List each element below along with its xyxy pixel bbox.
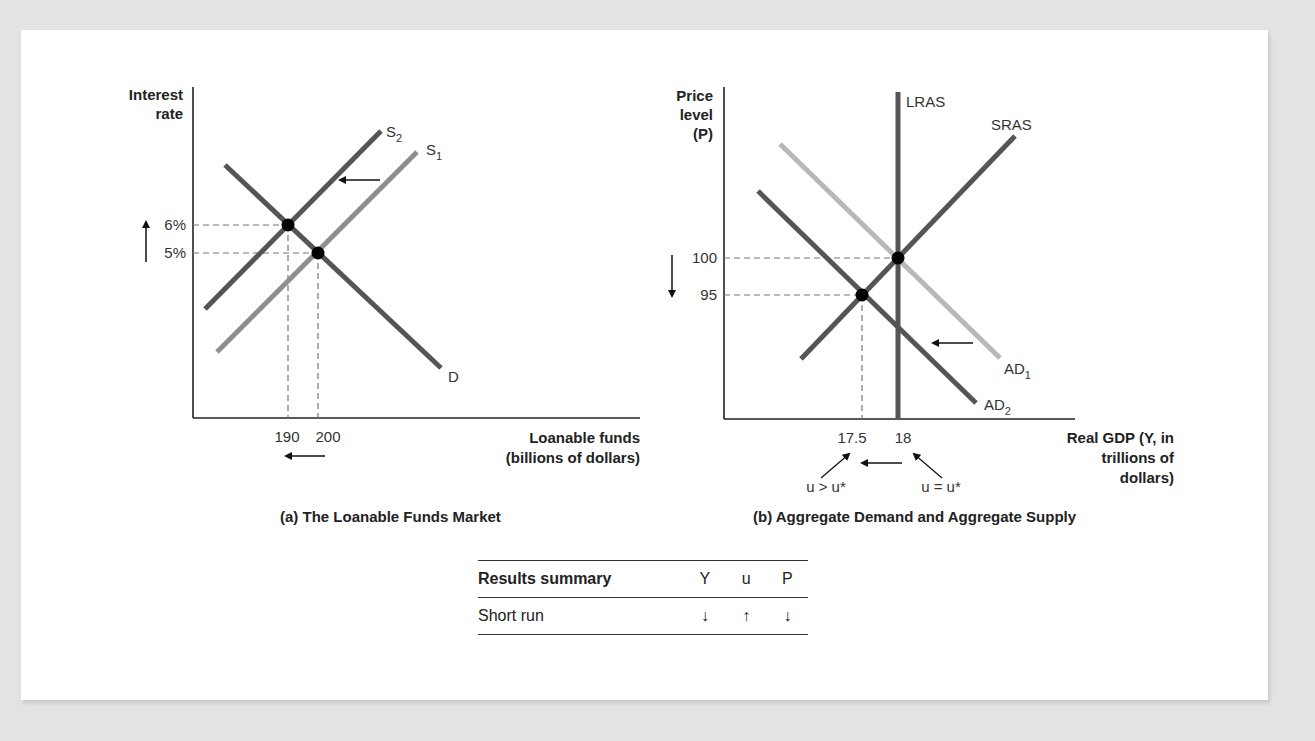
caption-a: (a) The Loanable Funds Market <box>280 508 501 525</box>
y-tick-100: 100 <box>692 249 717 266</box>
ad1-curve <box>780 144 1000 358</box>
guide-lines <box>193 225 318 418</box>
ad1-label: AD1 <box>1004 360 1031 381</box>
row-label: Short run <box>478 598 684 635</box>
x-tick-18: 18 <box>895 429 912 446</box>
x-tick-17-5: 17.5 <box>837 429 866 446</box>
sras-label: SRAS <box>991 116 1032 133</box>
x-axis-title-line2: trillions of <box>1102 449 1176 466</box>
note-unemployment-above: u > u* <box>806 478 846 495</box>
y-tick-5: 5% <box>164 244 186 261</box>
y-axis-title-line1: Price <box>676 87 713 104</box>
equilibrium-point-short-run <box>856 289 869 302</box>
loanable-funds-chart: Interest rate S2 S1 D 6% 5% 190 200 Lo <box>129 86 640 525</box>
y-axis-title-line3: (P) <box>693 125 713 142</box>
equilibrium-point-initial <box>312 247 325 260</box>
pointer-arrow-right-icon <box>914 454 942 478</box>
y-axis-title-line2: level <box>680 106 713 123</box>
x-tick-200: 200 <box>315 428 340 445</box>
d-label: D <box>448 368 459 385</box>
x-axis-title-line1: Loanable funds <box>529 429 640 446</box>
sras-curve <box>801 136 1015 359</box>
header-y: Y <box>684 561 725 598</box>
s1-label: S1 <box>426 141 442 162</box>
cell-u: ↑ <box>726 598 767 635</box>
results-summary-table: Results summary Y u P Short run ↓ ↑ ↓ <box>478 560 808 635</box>
header-results-summary: Results summary <box>478 561 684 598</box>
pointer-arrow-left-icon <box>821 454 849 478</box>
header-u: u <box>726 561 767 598</box>
equilibrium-point-new <box>282 219 295 232</box>
d-curve <box>225 165 441 368</box>
cell-p: ↓ <box>767 598 808 635</box>
ad-as-chart: Price level (P) LRAS SRAS AD1 AD2 100 95… <box>672 87 1175 525</box>
y-axis-title-line2: rate <box>155 105 183 122</box>
y-axis-title-line1: Interest <box>129 86 183 103</box>
y-tick-95: 95 <box>700 286 717 303</box>
table-header-row: Results summary Y u P <box>478 561 808 598</box>
x-axis-title-line1: Real GDP (Y, in <box>1067 429 1174 446</box>
x-axis-title-line3: dollars) <box>1120 469 1174 486</box>
cell-y: ↓ <box>684 598 725 635</box>
lras-label: LRAS <box>906 93 945 110</box>
header-p: P <box>767 561 808 598</box>
x-tick-190: 190 <box>274 428 299 445</box>
table-row: Short run ↓ ↑ ↓ <box>478 598 808 635</box>
note-unemployment-natural: u = u* <box>921 478 961 495</box>
s2-label: S2 <box>386 123 402 144</box>
x-axis-title-line2: (billions of dollars) <box>506 449 640 466</box>
y-tick-6: 6% <box>164 216 186 233</box>
s2-curve <box>205 131 381 309</box>
caption-b: (b) Aggregate Demand and Aggregate Suppl… <box>753 508 1077 525</box>
ad2-label: AD2 <box>984 396 1011 417</box>
equilibrium-point-initial <box>892 252 905 265</box>
